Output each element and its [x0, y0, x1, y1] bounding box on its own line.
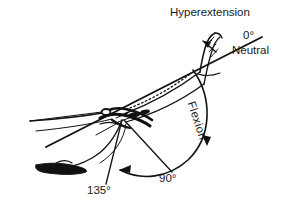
leader-line-ninety: [124, 120, 172, 172]
foot-toe-tip: [215, 33, 222, 38]
leader-line-one-thirty-five: [106, 120, 122, 184]
leader-line-knee-detail: [96, 124, 116, 135]
patella-ellipse: [102, 109, 111, 115]
label-one-thirty-five-degrees: 135°: [87, 185, 111, 197]
knee-range-of-motion-figure: Hyperextension 0° Neutral Flexion 90° 13…: [0, 0, 284, 208]
label-zero-degrees: 0°: [243, 30, 254, 42]
flexed-foot-solid: [36, 163, 87, 174]
ankle-crease: [198, 73, 220, 75]
flexed-foot-top-edge: [56, 161, 72, 163]
thigh-lower-contour: [36, 119, 112, 131]
neutral-axis-line: [46, 37, 262, 147]
figure-linework: [0, 0, 284, 208]
label-neutral: Neutral: [232, 45, 269, 57]
label-ninety-degrees: 90°: [159, 173, 176, 185]
label-hyperextension: Hyperextension: [170, 7, 250, 19]
